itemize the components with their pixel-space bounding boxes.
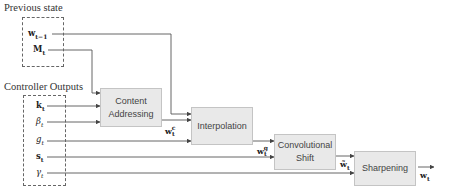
edge-label-wtilde: w̃t: [340, 159, 350, 171]
var-beta: βt: [36, 116, 43, 128]
var-gamma: γt: [36, 167, 44, 179]
var-w-prev: wt−1: [28, 28, 47, 40]
block-label: Shift: [278, 152, 333, 165]
interpolation-block: Interpolation: [191, 107, 253, 145]
var-key: kt: [36, 100, 45, 112]
sharpening-block: Sharpening: [354, 151, 416, 186]
convolutional-shift-block: ConvolutionalShift: [274, 134, 336, 170]
ntm-addressing-diagram: Previous state wt−1 Mt Controller Output…: [0, 0, 454, 196]
block-label: Interpolation: [197, 120, 247, 133]
edge-label-wout: wt: [420, 170, 430, 182]
var-memory: Mt: [33, 44, 45, 56]
previous-state-box: [22, 17, 64, 67]
block-label: Content: [108, 95, 153, 108]
block-label: Sharpening: [362, 162, 408, 175]
edge-label-wc: wtc: [165, 124, 175, 137]
block-label: Convolutional: [278, 139, 333, 152]
block-label: Addressing: [108, 108, 153, 121]
previous-state-title: Previous state: [4, 2, 63, 13]
var-shift: st: [36, 151, 44, 163]
controller-outputs-title: Controller Outputs: [4, 81, 83, 92]
var-gate: gt: [36, 134, 44, 146]
edge-label-wg: wtg: [257, 144, 268, 157]
content-addressing-block: ContentAddressing: [100, 88, 162, 127]
